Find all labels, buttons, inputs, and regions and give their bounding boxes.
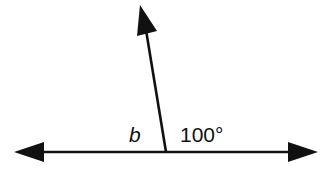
ray-arrowhead-icon <box>137 5 157 36</box>
left-arrowhead-icon <box>14 142 44 162</box>
angle-100-label: 100° <box>180 123 223 146</box>
ray <box>137 5 166 152</box>
angle-b-label: b <box>129 123 141 146</box>
right-arrowhead-icon <box>288 142 318 162</box>
angle-diagram: b 100° <box>0 0 332 170</box>
